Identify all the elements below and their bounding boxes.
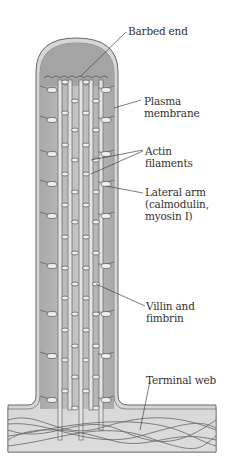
label-lateral-arm: Lateral arm (calmodulin, myosin I): [145, 186, 209, 222]
label-barbed-end: Barbed end: [128, 25, 188, 37]
label-plasma-membrane: Plasma membrane: [144, 95, 200, 119]
label-villin-fimbrin-line2: fimbrin: [146, 312, 195, 324]
label-lateral-arm-line1: Lateral arm: [145, 186, 209, 198]
microvillus-diagram: [0, 0, 225, 474]
label-plasma-membrane-line2: membrane: [144, 107, 200, 119]
label-lateral-arm-line3: myosin I): [145, 210, 209, 222]
label-actin-filaments-line2: filaments: [145, 157, 193, 169]
label-terminal-web: Terminal web: [146, 374, 216, 386]
label-actin-filaments: Actin filaments: [145, 145, 193, 169]
label-lateral-arm-line2: (calmodulin,: [145, 198, 209, 210]
label-villin-fimbrin-line1: Villin and: [146, 300, 195, 312]
label-actin-filaments-line1: Actin: [145, 145, 193, 157]
label-villin-fimbrin: Villin and fimbrin: [146, 300, 195, 324]
label-plasma-membrane-line1: Plasma: [144, 95, 200, 107]
